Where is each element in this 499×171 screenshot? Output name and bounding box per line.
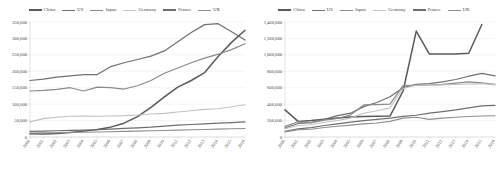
- legend-item: France: [163, 8, 191, 13]
- x-axis-tick-label: 2008: [382, 138, 392, 149]
- x-axis-tick-label: 2002: [303, 139, 312, 149]
- x-axis-tick-label: 2013: [447, 138, 457, 149]
- series-line-china: [285, 24, 482, 121]
- legend-item: US: [62, 8, 83, 13]
- y-axis-tick-label: 350,000: [12, 20, 28, 26]
- legend-label-japan: Japan: [105, 8, 116, 13]
- legend-swatch-japan: [340, 10, 353, 12]
- legend-swatch-us: [312, 10, 325, 12]
- x-axis-tick-label: 2006: [355, 138, 365, 149]
- x-axis-tick-label: 2001: [35, 139, 44, 149]
- x-axis-tick-label: 2016: [237, 138, 247, 149]
- legend-item: Japan: [340, 8, 366, 13]
- x-axis-tick-label: 2009: [395, 138, 405, 149]
- y-axis-tick-label: 200,000: [12, 69, 28, 75]
- y-axis-tick-label: 1,400,000: [264, 20, 283, 26]
- x-axis-tick-label: 2015: [223, 138, 233, 149]
- legend-item: France: [413, 8, 441, 13]
- x-axis-tick-label: 2011: [421, 139, 430, 149]
- y-axis-tick-label: 600,000: [267, 85, 283, 91]
- legend-label-us: US: [327, 8, 333, 13]
- legend-item: Japan: [90, 8, 116, 13]
- legend-label-us: US: [77, 8, 83, 13]
- x-axis-tick-label: 2009: [143, 138, 153, 149]
- legend-label-germany: Germany: [388, 8, 406, 13]
- x-axis-tick-label: 2008: [129, 138, 139, 149]
- figure-container: China US Japan Germany France UK: [0, 0, 499, 171]
- x-axis-tick-label: 2014: [210, 138, 220, 149]
- x-axis-tick-label: 2011: [170, 139, 179, 149]
- x-axis-tick-label: 2012: [183, 139, 192, 149]
- x-axis-tick-label: 2004: [75, 138, 85, 149]
- x-axis-tick-label: 2004: [329, 138, 339, 149]
- legend-item: Germany: [373, 8, 406, 13]
- x-axis-tick-label: 2005: [342, 138, 352, 149]
- x-axis-tick-label: 2002: [49, 139, 58, 149]
- legend-swatch-uk: [448, 10, 461, 12]
- legend-label-germany: Germany: [138, 8, 156, 13]
- y-axis-tick-label: 400,000: [267, 102, 283, 108]
- y-axis-tick-label: 200,000: [267, 118, 283, 124]
- x-axis-tick-label: 2005: [89, 138, 99, 149]
- plot-area-left: 050,000100,000150,000200,000250,000300,0…: [0, 18, 249, 171]
- legend-item: UK: [448, 8, 470, 13]
- legend-label-uk: UK: [463, 8, 470, 13]
- x-axis-tick-label: 2016: [487, 138, 497, 149]
- legend-swatch-china: [278, 9, 291, 11]
- x-axis-tick-label: 2012: [434, 139, 443, 149]
- legend-label-france: France: [178, 8, 191, 13]
- x-axis-tick-label: 2001: [290, 139, 299, 149]
- x-axis-tick-label: 2014: [460, 138, 470, 149]
- legend-label-japan: Japan: [355, 8, 366, 13]
- x-axis-tick-label: 2003: [62, 138, 72, 149]
- y-axis-tick-label: 50,000: [14, 118, 27, 124]
- legend-swatch-germany: [123, 10, 136, 11]
- y-axis-tick-label: 1,000,000: [264, 52, 283, 58]
- legend-swatch-france: [413, 9, 426, 11]
- chart-panel-right: China US Japan Germany France UK: [249, 0, 499, 171]
- y-axis-tick-label: 150,000: [12, 85, 28, 91]
- series-line-china: [30, 30, 245, 134]
- series-line-japan: [30, 44, 245, 91]
- x-axis-tick-label: 2013: [196, 138, 206, 149]
- legend-item: China: [278, 8, 304, 13]
- plot-area-right: 0200,000400,000600,000800,0001,000,0001,…: [249, 18, 499, 171]
- y-axis-tick-label: 1,200,000: [264, 36, 283, 42]
- legend-swatch-germany: [373, 10, 386, 11]
- legend-label-france: France: [428, 8, 441, 13]
- series-line-us: [30, 24, 245, 81]
- legend-item: Germany: [123, 8, 156, 13]
- legend-right: China US Japan Germany France UK: [249, 8, 499, 13]
- x-axis-tick-label: 2000: [22, 138, 32, 149]
- x-axis-tick-label: 2007: [369, 138, 379, 149]
- legend-label-china: China: [44, 8, 55, 13]
- y-axis-tick-label: 300,000: [12, 36, 28, 42]
- legend-swatch-us: [62, 10, 75, 12]
- legend-item: US: [312, 8, 333, 13]
- legend-item: UK: [198, 8, 220, 13]
- legend-swatch-france: [163, 9, 176, 11]
- x-axis-tick-label: 2010: [156, 138, 166, 149]
- legend-item: China: [29, 8, 55, 13]
- y-axis-tick-label: 250,000: [12, 52, 28, 58]
- legend-left: China US Japan Germany France UK: [0, 8, 249, 13]
- legend-swatch-japan: [90, 10, 103, 12]
- chart-panel-left: China US Japan Germany France UK: [0, 0, 249, 171]
- line-chart-right: 0200,000400,000600,000800,0001,000,0001,…: [249, 18, 499, 171]
- x-axis-tick-label: 2006: [102, 138, 112, 149]
- x-axis-tick-label: 2007: [116, 138, 126, 149]
- series-line-france: [30, 122, 245, 132]
- series-line-france: [285, 105, 495, 131]
- y-axis-tick-label: 800,000: [267, 69, 283, 75]
- y-axis-tick-label: 100,000: [12, 102, 28, 108]
- x-axis-tick-label: 2010: [408, 138, 418, 149]
- legend-label-uk: UK: [213, 8, 220, 13]
- line-chart-left: 050,000100,000150,000200,000250,000300,0…: [0, 18, 249, 171]
- series-line-germany: [30, 105, 245, 122]
- legend-swatch-uk: [198, 10, 211, 12]
- x-axis-tick-label: 2003: [316, 138, 326, 149]
- legend-label-china: China: [293, 8, 304, 13]
- legend-swatch-china: [29, 9, 42, 11]
- x-axis-tick-label: 2015: [474, 138, 484, 149]
- x-axis-tick-label: 2000: [277, 138, 287, 149]
